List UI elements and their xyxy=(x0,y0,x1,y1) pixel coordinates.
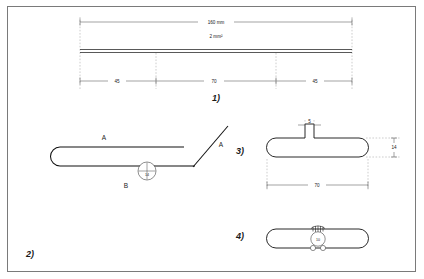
figure-3-group: 3) 5 14 xyxy=(236,119,400,191)
fig2-label-a-upper-right: A xyxy=(219,141,224,148)
fig2-label-b: B xyxy=(124,182,128,189)
figure-1-group: 160 mm 2 mm² 45 70 45 xyxy=(80,17,352,103)
figure-2-label: 2) xyxy=(25,249,34,259)
figure-3-label: 3) xyxy=(236,146,244,156)
fig2-hairpin-path xyxy=(51,147,185,166)
drawing-sheet: 160 mm 2 mm² 45 70 45 xyxy=(0,0,424,279)
fig4-bubble-text: 10 xyxy=(316,238,320,242)
fig4-node-right xyxy=(320,245,325,250)
sheet-border: 160 mm 2 mm² 45 70 45 xyxy=(7,6,416,272)
fig3-loop-outline xyxy=(267,124,369,157)
figure-1-label: 1) xyxy=(212,93,220,103)
fig1-segment-2-text: 70 xyxy=(211,79,217,84)
fig2-label-a-upper-left: A xyxy=(102,134,107,141)
fig4-twist-detail xyxy=(311,226,325,232)
fig3-tab-dimension-text: 5 xyxy=(308,119,311,124)
fig1-segment-3-text: 45 xyxy=(312,79,318,84)
fig2-bubble-text: 14 xyxy=(145,173,149,177)
figure-2-group: 14 A A B 2) xyxy=(25,126,228,259)
fig1-section-text: 2 mm² xyxy=(209,34,222,39)
fig3-height-dimension-text: 14 xyxy=(391,145,397,150)
fig1-overall-dimension-text: 160 mm xyxy=(208,20,225,25)
figure-4-label: 4) xyxy=(235,231,244,241)
technical-drawing-canvas: 160 mm 2 mm² 45 70 45 xyxy=(8,7,417,273)
figure-4-group: 4) 10 xyxy=(235,226,369,251)
fig4-node-left xyxy=(310,245,315,250)
fig3-length-dimension-text: 70 xyxy=(314,183,320,188)
fig1-segment-1-text: 45 xyxy=(114,79,120,84)
